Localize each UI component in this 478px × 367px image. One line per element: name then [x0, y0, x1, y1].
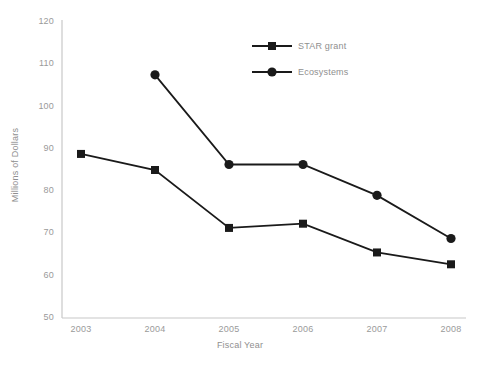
y-tick-label: 60	[26, 270, 54, 280]
y-tick-label: 100	[26, 101, 54, 111]
axis-lines	[62, 20, 466, 318]
data-point-square	[447, 260, 455, 268]
series-line	[81, 154, 451, 264]
data-point-square	[225, 224, 233, 232]
y-tick-label: 50	[26, 312, 54, 322]
x-tick-label: 2006	[283, 324, 323, 334]
legend-label-star-grant: STAR grant	[298, 41, 346, 51]
line-chart: 5060708090100110120 20032004200520062007…	[0, 0, 478, 367]
y-axis-title: Millions of Dollars	[10, 117, 20, 213]
data-point-circle	[150, 70, 159, 79]
x-axis-title: Fiscal Year	[200, 340, 280, 350]
x-tick-label: 2008	[431, 324, 471, 334]
data-point-square	[373, 248, 381, 256]
x-tick-label: 2004	[135, 324, 175, 334]
plot-area	[0, 0, 478, 367]
x-tick-label: 2007	[357, 324, 397, 334]
data-point-square	[299, 220, 307, 228]
data-point-circle	[446, 234, 455, 243]
y-tick-label: 70	[26, 227, 54, 237]
data-point-circle	[224, 160, 233, 169]
legend-marker-star-grant	[268, 42, 276, 50]
data-point-square	[77, 150, 85, 158]
x-tick-label: 2005	[209, 324, 249, 334]
data-series-layer	[77, 70, 456, 268]
y-tick-label: 110	[26, 58, 54, 68]
series-line	[155, 75, 451, 239]
legend-marker-ecosystems	[267, 67, 276, 76]
y-tick-label: 80	[26, 185, 54, 195]
x-tick-label: 2003	[61, 324, 101, 334]
data-point-square	[151, 166, 159, 174]
y-tick-label: 120	[26, 16, 54, 26]
y-tick-label: 90	[26, 143, 54, 153]
data-point-circle	[372, 191, 381, 200]
legend-label-ecosystems: Ecosystems	[298, 67, 349, 77]
data-point-circle	[298, 160, 307, 169]
legend-markers	[252, 42, 292, 77]
